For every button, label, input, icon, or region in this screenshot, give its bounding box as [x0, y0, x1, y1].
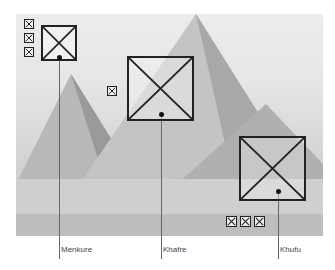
label-khafre: Khafre: [163, 245, 187, 254]
khufu-queen-pyramid-1: [226, 216, 237, 227]
khafre-leader-line: [161, 116, 162, 259]
menkure-marker: [57, 55, 62, 60]
khufu-plan: [239, 136, 306, 201]
khufu-queen-pyramid-3: [254, 216, 265, 227]
label-khufu: Khufu: [280, 245, 301, 254]
khafre-queen-pyramid-1: [107, 86, 117, 96]
menkure-queen-pyramid-1: [24, 19, 34, 29]
khufu-leader-line: [278, 193, 279, 259]
menkure-queen-pyramid-2: [24, 33, 34, 43]
menkure-leader-line: [59, 59, 60, 259]
menkure-queen-pyramid-3: [24, 47, 34, 57]
label-menkure: Menkure: [61, 245, 92, 254]
khufu-marker: [276, 189, 281, 194]
khufu-queen-pyramid-2: [240, 216, 251, 227]
khafre-marker: [159, 112, 164, 117]
